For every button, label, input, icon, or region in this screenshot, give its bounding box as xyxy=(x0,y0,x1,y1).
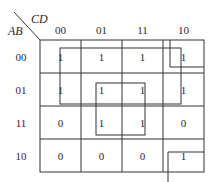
col-variable-label: CD xyxy=(31,14,48,25)
cell-11-10: 0 xyxy=(163,106,204,139)
cell-01-11: 1 xyxy=(122,73,163,106)
col-header: 11 xyxy=(122,25,163,36)
cell-00-01: 1 xyxy=(81,40,122,73)
cell-10-01: 0 xyxy=(81,139,122,172)
cell-11-01: 1 xyxy=(81,106,122,139)
cell-10-00: 0 xyxy=(40,139,81,172)
cell-01-01: 1 xyxy=(81,73,122,106)
col-header: 10 xyxy=(163,25,204,36)
cell-10-10: 1 xyxy=(163,139,204,172)
cell-00-10: 1 xyxy=(163,40,204,73)
row-header: 10 xyxy=(8,151,34,162)
row-header: 00 xyxy=(8,52,34,63)
cell-01-00: 1 xyxy=(40,73,81,106)
cell-01-10: 1 xyxy=(163,73,204,106)
col-header: 00 xyxy=(40,25,81,36)
cell-11-11: 1 xyxy=(122,106,163,139)
cell-11-00: 0 xyxy=(40,106,81,139)
karnaugh-map: CD AB 00 01 11 10 00 01 11 10 1 1 1 1 1 … xyxy=(0,0,211,182)
row-variable-label: AB xyxy=(8,26,23,37)
cell-00-00: 1 xyxy=(40,40,81,73)
cell-10-11: 0 xyxy=(122,139,163,172)
cell-00-11: 1 xyxy=(122,40,163,73)
col-header: 01 xyxy=(81,25,122,36)
row-header: 01 xyxy=(8,85,34,96)
row-header: 11 xyxy=(8,118,34,129)
